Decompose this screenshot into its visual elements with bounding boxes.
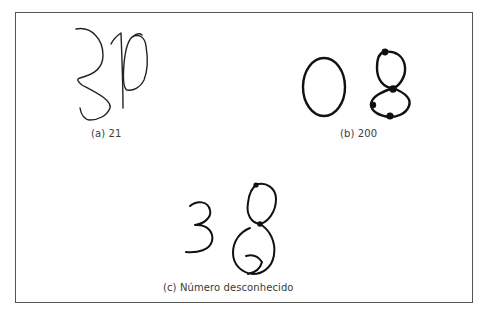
caption-panel-c: (c) Número desconhecido bbox=[163, 282, 294, 293]
digit-3-stroke bbox=[186, 202, 212, 252]
handwriting-canvas bbox=[0, 0, 487, 316]
digit-0-stroke bbox=[123, 34, 147, 90]
digit-1-stroke bbox=[111, 33, 123, 108]
digit-8-stroke bbox=[377, 52, 405, 88]
digit-8-lower-stroke bbox=[233, 224, 274, 274]
digit-3-stroke bbox=[76, 29, 110, 120]
caption-panel-a: (a) 21 bbox=[91, 128, 121, 139]
panel-b-strokes bbox=[303, 50, 410, 119]
digit-0-stroke bbox=[303, 58, 345, 116]
panel-c-strokes bbox=[186, 183, 276, 274]
digit-8-stroke bbox=[248, 184, 276, 224]
caption-panel-b: (b) 200 bbox=[340, 128, 377, 139]
panel-a-strokes bbox=[76, 29, 147, 120]
